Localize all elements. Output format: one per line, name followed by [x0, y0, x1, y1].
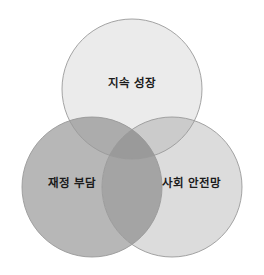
- venn-diagram-canvas: 지속 성장 재정 부담 사회 안전망: [0, 0, 264, 275]
- venn-diagram-figure: 지속 성장 재정 부담 사회 안전망: [0, 0, 264, 275]
- venn-label-fiscal-burden: 재정 부담: [48, 176, 96, 189]
- venn-label-growth: 지속 성장: [108, 76, 156, 89]
- venn-label-safety-net: 사회 안전망: [162, 176, 221, 189]
